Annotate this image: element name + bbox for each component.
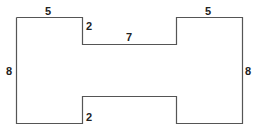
label-top-notch-height: 2 (86, 21, 92, 32)
label-top-middle-width: 7 (126, 32, 132, 43)
label-top-right-width: 5 (205, 6, 211, 17)
shape-outline (0, 0, 258, 128)
diagram-canvas: 5 2 7 5 8 8 2 (0, 0, 258, 128)
label-left-height: 8 (6, 66, 12, 77)
label-top-left-width: 5 (45, 6, 51, 17)
label-right-height: 8 (245, 66, 251, 77)
label-bottom-notch-height: 2 (86, 112, 92, 123)
